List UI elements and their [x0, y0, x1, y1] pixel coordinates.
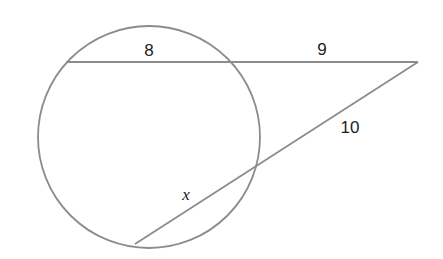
secant-diagram: 8 9 10 x	[0, 0, 443, 259]
label-top-internal-segment: 8	[144, 41, 153, 60]
label-bottom-internal-segment: x	[181, 185, 190, 204]
label-top-external-segment: 9	[317, 40, 326, 59]
label-bottom-external-segment: 10	[341, 118, 360, 137]
bottom-secant-line	[135, 62, 418, 244]
